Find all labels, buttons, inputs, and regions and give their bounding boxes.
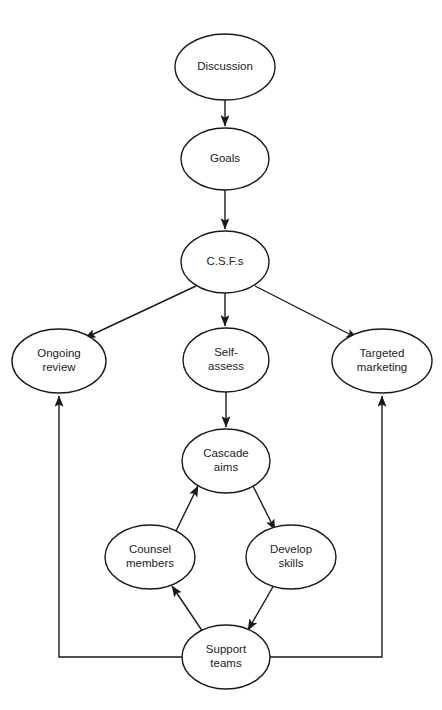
node-support-teams[interactable]: Supportteams	[182, 625, 270, 689]
node-shape-counsel-members	[105, 525, 195, 589]
node-shape-cascade-aims	[182, 429, 270, 493]
node-csfs[interactable]: C.S.F.s	[181, 231, 269, 293]
node-shape-self-assess	[183, 328, 269, 392]
node-cascade-aims[interactable]: Cascadeaims	[182, 429, 270, 493]
node-shape-targeted-marketing	[332, 329, 432, 393]
flowchart-diagram: DiscussionGoalsC.S.F.sOngoingreviewSelf-…	[0, 0, 442, 710]
edge-csfs-to-ongoing-review	[85, 286, 196, 338]
edge-counsel-members-to-cascade-aims	[175, 486, 198, 533]
node-develop-skills[interactable]: Developskills	[246, 525, 336, 589]
node-ongoing-review[interactable]: Ongoingreview	[12, 329, 106, 393]
node-shape-develop-skills	[246, 525, 336, 589]
edge-cascade-aims-to-develop-skills	[253, 486, 275, 530]
node-shape-ongoing-review	[12, 329, 106, 393]
edge-support-teams-to-counsel-members	[172, 586, 203, 632]
node-shape-csfs	[181, 231, 269, 293]
node-shape-discussion	[175, 34, 275, 100]
node-self-assess[interactable]: Self-assess	[183, 328, 269, 392]
node-shape-goals	[181, 128, 269, 190]
nodes-layer: DiscussionGoalsC.S.F.sOngoingreviewSelf-…	[12, 34, 432, 689]
node-counsel-members[interactable]: Counselmembers	[105, 525, 195, 589]
node-goals[interactable]: Goals	[181, 128, 269, 190]
edge-csfs-to-targeted-marketing	[255, 286, 357, 338]
node-discussion[interactable]: Discussion	[175, 34, 275, 100]
edge-develop-skills-to-support-teams	[248, 585, 274, 630]
flowchart-canvas: DiscussionGoalsC.S.F.sOngoingreviewSelf-…	[0, 0, 442, 710]
node-shape-support-teams	[182, 625, 270, 689]
node-targeted-marketing[interactable]: Targetedmarketing	[332, 329, 432, 393]
